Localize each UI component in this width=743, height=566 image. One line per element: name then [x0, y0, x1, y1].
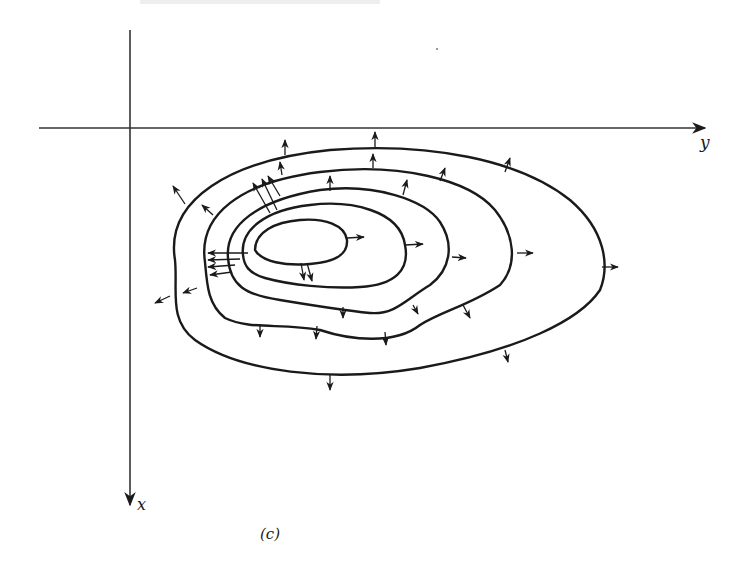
contour-diagram: [0, 0, 743, 566]
contours: [174, 148, 605, 374]
figure-canvas: y x (c): [0, 0, 743, 566]
x-axis-label: x: [137, 495, 146, 514]
contour-2: [204, 169, 512, 339]
contour-5: [255, 220, 347, 265]
figure-caption: (c): [260, 525, 280, 543]
y-axis-label: y: [700, 132, 710, 152]
contour-4: [243, 204, 406, 288]
contour-1: [174, 148, 605, 374]
contour-3: [228, 188, 449, 313]
